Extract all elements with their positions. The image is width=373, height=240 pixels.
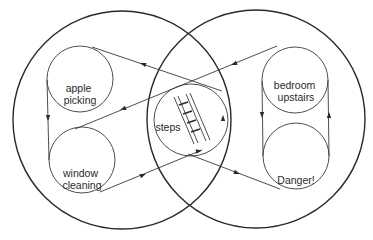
arrow-left-icon (139, 61, 146, 67)
apple-picking-label: apple picking (64, 82, 97, 106)
edge-steps-to-danger (188, 154, 280, 189)
arrow-down-icon (260, 112, 264, 118)
edge-bedroom-to-danger (262, 81, 263, 156)
arrow-down-icon (46, 115, 50, 121)
right-set-circle (147, 10, 365, 228)
arrow-up-icon (327, 112, 331, 118)
arrow-left-icon (119, 106, 126, 112)
ladder-icon (174, 93, 210, 144)
arrow-right-icon (196, 148, 203, 153)
left-set-circle (13, 11, 231, 229)
arrow-left-icon (230, 61, 237, 67)
danger-label: Danger! (277, 174, 314, 186)
window-cleaning-label: window cleaning (62, 167, 102, 191)
edge-window-cleaning-to-steps (100, 150, 202, 192)
arrow-up-icon (221, 115, 225, 121)
arrow-right-icon (233, 170, 240, 176)
venn-cycle-diagram: apple picking window cleaning steps bedr… (0, 0, 373, 240)
bedroom-upstairs-label: bedroom upstairs (274, 79, 318, 103)
steps-label: steps (155, 121, 180, 133)
